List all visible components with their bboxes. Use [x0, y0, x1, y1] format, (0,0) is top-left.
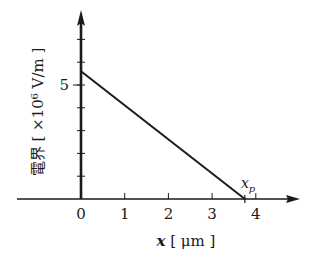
- x-tick-label: 0: [76, 205, 86, 223]
- x-axis-arrow-icon: [286, 195, 300, 203]
- x-axis-label: x [ μm ]: [156, 232, 216, 250]
- y-axis-label: 電界 [ ×10⁶ V/m ]: [29, 48, 47, 177]
- x-tick-label: 4: [251, 205, 261, 223]
- field-line: [81, 71, 245, 199]
- data-series: [81, 71, 245, 203]
- electric-field-chart: 012345 xpx [ μm ]電界 [ ×10⁶ V/m ]: [0, 0, 315, 271]
- x-tick-label: 1: [120, 205, 130, 223]
- axes: [17, 10, 300, 203]
- xp-annotation: xp: [241, 175, 256, 194]
- x-tick-label: 2: [164, 205, 174, 223]
- ticks: 012345: [59, 39, 260, 223]
- y-tick-label: 5: [59, 76, 69, 94]
- x-tick-label: 3: [207, 205, 217, 223]
